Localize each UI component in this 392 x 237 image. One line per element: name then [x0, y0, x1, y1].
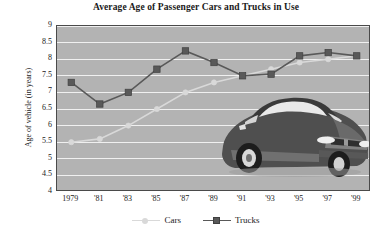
y-axis-tick-label: 8	[6, 54, 52, 62]
x-axis-tick-label: 1979	[62, 194, 78, 203]
x-axis-tick-labels: 1979'81'83'85'87'89'91'93'95'97'99	[56, 194, 370, 208]
y-axis-tick-label: 6.5	[6, 104, 52, 112]
x-axis-tick-label: '81	[94, 194, 103, 203]
y-axis-tick-label: 4	[6, 187, 52, 195]
data-series-layer	[57, 26, 370, 191]
circle-marker	[211, 80, 216, 85]
square-marker	[211, 59, 217, 65]
square-marker	[239, 73, 245, 79]
legend-label: Cars	[164, 215, 181, 225]
square-marker	[296, 53, 302, 59]
x-axis-tick-label: '83	[123, 194, 132, 203]
circle-marker	[132, 216, 160, 225]
y-axis-tick-label: 7.5	[6, 71, 52, 79]
square-marker	[325, 49, 331, 55]
y-axis-tick-label: 5	[6, 154, 52, 162]
x-axis-tick-label: '95	[294, 194, 303, 203]
circle-marker	[142, 218, 148, 224]
circle-marker	[154, 106, 159, 111]
circle-marker	[97, 136, 102, 141]
y-axis-tick-label: 5.5	[6, 137, 52, 145]
x-axis-tick-label: '87	[180, 194, 189, 203]
square-marker	[97, 101, 103, 107]
series-line	[71, 51, 356, 104]
square-marker	[268, 71, 274, 77]
circle-marker	[69, 140, 74, 145]
chart-container: Average Age of Passenger Cars and Trucks…	[0, 0, 392, 237]
y-axis-tick-labels: 98.587.576.565.554.54	[4, 25, 52, 191]
circle-marker	[326, 57, 331, 62]
y-axis-tick-label: 7	[6, 87, 52, 95]
circle-marker	[297, 60, 302, 65]
square-marker	[354, 53, 360, 59]
chart-legend: CarsTrucks	[0, 215, 392, 225]
square-marker	[125, 89, 131, 95]
square-marker	[154, 66, 160, 72]
circle-marker	[126, 123, 131, 128]
x-axis-tick-label: '91	[237, 194, 246, 203]
x-axis-tick-label: '89	[208, 194, 217, 203]
y-axis-tick-label: 4.5	[6, 170, 52, 178]
x-axis-tick-label: '85	[151, 194, 160, 203]
x-axis-tick-label: '93	[265, 194, 274, 203]
square-marker	[68, 79, 74, 85]
y-axis-tick-label: 6	[6, 121, 52, 129]
y-axis-tick-label: 8.5	[6, 38, 52, 46]
legend-item-cars[interactable]: Cars	[132, 215, 181, 225]
series-trucks	[68, 48, 360, 108]
circle-marker	[183, 90, 188, 95]
square-marker	[203, 216, 231, 225]
legend-item-trucks[interactable]: Trucks	[203, 215, 260, 225]
chart-title: Average Age of Passenger Cars and Trucks…	[0, 2, 392, 12]
y-axis-tick-label: 9	[6, 21, 52, 29]
plot-area	[56, 25, 370, 191]
legend-label: Trucks	[235, 215, 260, 225]
square-marker	[182, 48, 188, 54]
x-axis-tick-label: '99	[351, 194, 360, 203]
square-marker	[213, 217, 220, 224]
x-axis-tick-label: '97	[322, 194, 331, 203]
